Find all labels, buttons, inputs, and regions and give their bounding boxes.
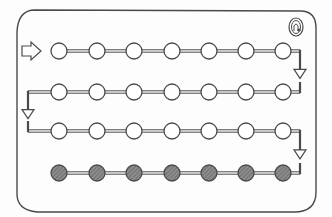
filled-node	[89, 165, 105, 181]
filled-node	[238, 165, 254, 181]
filled-node	[164, 165, 180, 181]
empty-node	[51, 123, 67, 139]
empty-node	[275, 84, 291, 100]
down-arrow-icon	[22, 110, 34, 119]
empty-node	[238, 84, 254, 100]
empty-node	[89, 43, 105, 59]
empty-node	[201, 123, 217, 139]
empty-node	[51, 84, 67, 100]
empty-node	[126, 43, 142, 59]
path-connectors	[22, 50, 306, 174]
empty-node	[89, 123, 105, 139]
path-nodes	[51, 43, 291, 181]
empty-node	[51, 43, 67, 59]
empty-node	[238, 43, 254, 59]
empty-node	[164, 123, 180, 139]
board-diagram	[0, 0, 332, 217]
down-arrow-icon	[294, 150, 306, 159]
empty-node	[164, 43, 180, 59]
empty-node	[275, 43, 291, 59]
filled-node	[201, 165, 217, 181]
empty-node	[238, 123, 254, 139]
bell-icon	[289, 18, 303, 36]
empty-node	[89, 84, 105, 100]
empty-node	[126, 84, 142, 100]
board-frame	[17, 10, 316, 212]
start-arrow-icon	[22, 42, 41, 60]
empty-node	[275, 123, 291, 139]
empty-node	[201, 43, 217, 59]
empty-node	[164, 84, 180, 100]
filled-node	[51, 165, 67, 181]
frame-border	[17, 10, 316, 212]
filled-node	[126, 165, 142, 181]
down-arrow-icon	[294, 69, 306, 78]
filled-node	[275, 165, 291, 181]
empty-node	[126, 123, 142, 139]
empty-node	[201, 84, 217, 100]
